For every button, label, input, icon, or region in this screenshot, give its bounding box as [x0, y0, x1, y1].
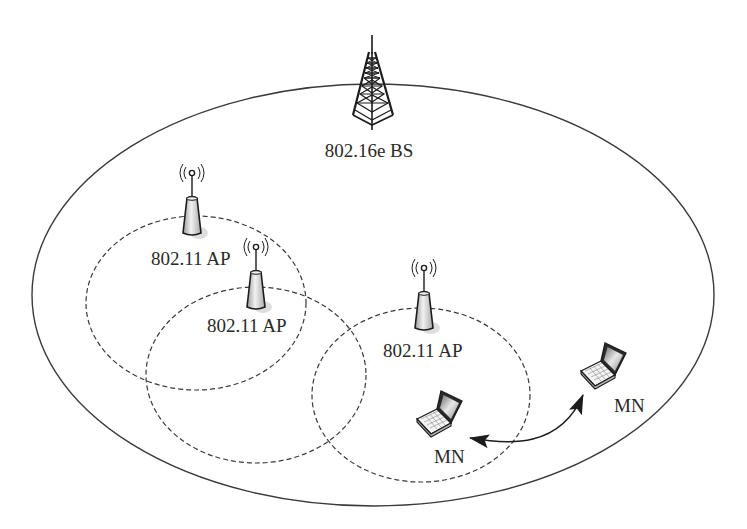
handover-arrow [470, 395, 583, 442]
wifi-access-point-icon [412, 259, 440, 334]
access-point-label: 802.11 AP [207, 315, 287, 336]
ap-coverage-area-3 [312, 308, 530, 482]
mobile-node-label: MN [614, 395, 645, 416]
ap-coverage-area-1 [86, 216, 306, 390]
mobile-node-label: MN [434, 446, 465, 467]
wifi-access-point-icon [180, 164, 208, 239]
access-point-label: 802.11 AP [383, 340, 463, 361]
wifi-access-point-icon [244, 238, 272, 313]
base-station-label: 802.16e BS [325, 140, 414, 161]
laptop-icon [581, 343, 626, 389]
laptop-icon [417, 391, 462, 437]
access-point-label: 802.11 AP [151, 248, 231, 269]
network-diagram: 802.16e BS 802.11 AP 802.11 AP 802.11 AP… [0, 0, 747, 529]
ap-coverage-area-2 [146, 287, 366, 463]
cell-tower-icon [353, 35, 393, 130]
